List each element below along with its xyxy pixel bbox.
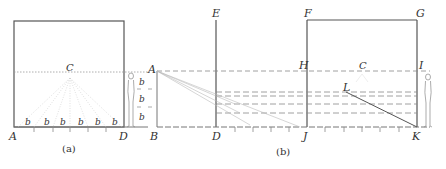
ground-ticks xyxy=(235,127,399,132)
label-i: I xyxy=(418,59,424,72)
label-c: C xyxy=(359,60,367,71)
rays-from-a xyxy=(157,71,300,127)
label-d: D xyxy=(118,130,128,143)
transversal-lines xyxy=(216,92,417,113)
side-b-label: b xyxy=(139,94,145,104)
label-j: J xyxy=(301,130,308,143)
label-k: K xyxy=(411,130,421,143)
rays-near-c xyxy=(356,74,368,82)
panel-b: A B D E F G H C I J K L (b) xyxy=(147,7,432,157)
line-lk xyxy=(346,92,417,127)
b-label: b xyxy=(44,117,50,127)
caption-a: (a) xyxy=(62,143,76,154)
human-figure-icon xyxy=(127,73,135,127)
label-d: D xyxy=(211,130,221,143)
label-a: A xyxy=(147,63,156,76)
b-label: b xyxy=(78,117,84,127)
label-l: L xyxy=(342,81,350,94)
side-b-label: b xyxy=(139,77,145,87)
human-figure-icon xyxy=(424,74,432,127)
label-b: B xyxy=(149,130,158,143)
panel-a-square xyxy=(14,21,124,127)
caption-b: (b) xyxy=(276,146,290,157)
label-c: C xyxy=(66,62,74,73)
label-a: A xyxy=(8,130,17,143)
b-label: b xyxy=(25,117,31,127)
label-g: G xyxy=(416,7,425,20)
ground-ticks xyxy=(34,127,106,132)
panel-a: A C D b b b b b b b b b (a) xyxy=(8,21,150,154)
perspective-diagram: A C D b b b b b b b b b (a) xyxy=(0,0,446,169)
label-h: H xyxy=(298,59,309,72)
perspective-rays xyxy=(18,78,122,127)
b-label: b xyxy=(60,117,66,127)
b-label: b xyxy=(95,117,101,127)
side-b-label: b xyxy=(139,112,145,122)
b-label: b xyxy=(112,117,118,127)
side-ticks xyxy=(148,89,152,107)
label-e: E xyxy=(211,7,220,20)
label-f: F xyxy=(303,7,312,20)
